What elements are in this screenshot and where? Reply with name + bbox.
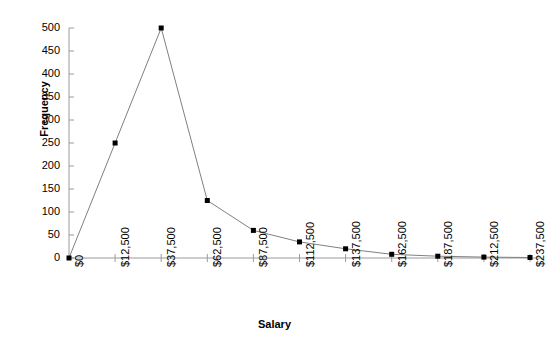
data-point-marker [389, 252, 394, 257]
data-point-marker [205, 198, 210, 203]
y-tick-label: 150 [16, 183, 60, 194]
x-tick-label: $62,500 [212, 227, 223, 267]
y-tick-label: 300 [16, 114, 60, 125]
x-tick-label: $0 [74, 255, 85, 267]
data-point-marker [343, 246, 348, 251]
data-point-marker [159, 26, 164, 31]
plot-area [0, 0, 549, 346]
x-tick-label: $187,500 [443, 221, 454, 267]
data-point-marker [297, 239, 302, 244]
data-point-marker [481, 255, 486, 260]
data-point-marker [113, 141, 118, 146]
data-series-frequency [67, 26, 533, 261]
data-point-marker [251, 228, 256, 233]
data-point-marker [528, 255, 533, 260]
y-axis-ticks [69, 28, 74, 258]
series-line [69, 28, 530, 258]
data-point-marker [67, 256, 72, 261]
x-axis-title: Salary [0, 318, 549, 330]
y-tick-label: 100 [16, 206, 60, 217]
x-tick-label: $37,500 [166, 227, 177, 267]
series-markers [67, 26, 533, 261]
y-axis [69, 28, 74, 258]
y-tick-label: 450 [16, 45, 60, 56]
data-point-marker [435, 254, 440, 259]
x-tick-label: $112,500 [305, 222, 316, 267]
y-tick-label: 400 [16, 68, 60, 79]
y-tick-label: 500 [16, 22, 60, 33]
y-tick-label: 350 [16, 91, 60, 102]
y-tick-label: 200 [16, 160, 60, 171]
x-tick-label: $137,500 [351, 221, 362, 267]
y-tick-label: 50 [16, 229, 60, 240]
salary-frequency-chart: Frequency 050100150200250300350400450500… [0, 0, 549, 346]
y-tick-label: 250 [16, 137, 60, 148]
x-tick-label: $237,500 [535, 221, 546, 267]
x-tick-label: $212,500 [489, 221, 500, 267]
x-tick-label: $87,500 [258, 227, 269, 267]
x-tick-label: $12,500 [120, 227, 131, 267]
y-tick-label: 0 [16, 252, 60, 263]
x-tick-label: $162,500 [397, 221, 408, 267]
